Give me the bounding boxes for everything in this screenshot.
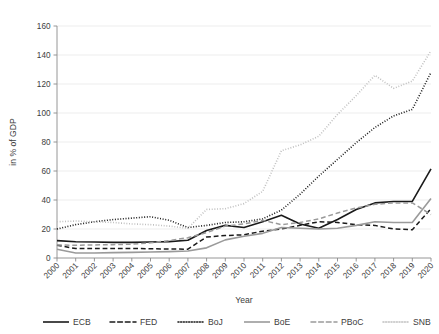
series-line-ecb — [57, 169, 431, 243]
x-axis-tick-label: 2002 — [80, 261, 100, 281]
x-axis-tick-label: 2001 — [61, 261, 81, 281]
y-axis-tick-label: 140 — [37, 51, 51, 60]
y-axis-tick-label: 80 — [41, 138, 51, 147]
chart-canvas: 0204060801001201401602000200120022003200… — [0, 0, 439, 334]
x-axis-tick-label: 2019 — [397, 261, 417, 281]
y-axis-tick-label: 100 — [37, 109, 51, 118]
y-axis-title: in % of GDP — [8, 118, 18, 166]
x-axis-tick-label: 2006 — [154, 261, 174, 281]
x-axis-tick-label: 2012 — [267, 261, 287, 281]
x-axis-tick-label: 2008 — [192, 261, 212, 281]
line-chart: 0204060801001201401602000200120022003200… — [0, 0, 439, 334]
legend-label: ECB — [73, 317, 91, 327]
legend-item-ecb[interactable]: ECB — [43, 317, 91, 327]
legend-item-snb[interactable]: SNB — [383, 317, 431, 327]
x-axis-tick-label: 2018 — [379, 261, 399, 281]
legend-label: BoE — [274, 317, 291, 327]
legend-label: SNB — [413, 317, 431, 327]
y-axis-tick-label: 60 — [41, 167, 51, 176]
series-line-snb — [57, 51, 431, 229]
x-axis-tick-label: 2015 — [323, 261, 343, 281]
series-line-pboc — [57, 203, 431, 245]
x-axis-tick-label: 2010 — [229, 261, 249, 281]
legend-label: PBoC — [341, 317, 363, 327]
x-axis-tick-label: 2005 — [136, 261, 156, 281]
x-axis-tick-label: 2014 — [304, 261, 324, 281]
legend-item-fed[interactable]: FED — [110, 317, 157, 327]
legend-item-boe[interactable]: BoE — [244, 317, 291, 327]
x-axis-tick-label: 2009 — [210, 261, 230, 281]
y-axis-tick-label: 0 — [46, 254, 51, 263]
legend-label: BoJ — [208, 317, 223, 327]
x-axis-tick-label: 2007 — [173, 261, 193, 281]
x-axis-tick-label: 2013 — [285, 261, 305, 281]
y-axis-tick-label: 40 — [41, 196, 51, 205]
x-axis-tick-label: 2000 — [42, 261, 62, 281]
x-axis-tick-label: 2004 — [117, 261, 137, 281]
y-axis-tick-label: 120 — [37, 80, 51, 89]
legend-label: FED — [140, 317, 157, 327]
x-axis-tick-label: 2003 — [98, 261, 118, 281]
x-axis-tick-label: 2011 — [248, 261, 267, 280]
legend-item-boj[interactable]: BoJ — [178, 317, 223, 327]
y-axis-tick-label: 160 — [37, 22, 51, 31]
x-axis-tick-label: 2017 — [360, 261, 380, 281]
legend-item-pboc[interactable]: PBoC — [311, 317, 363, 327]
x-axis-title: Year — [235, 295, 253, 305]
y-axis-tick-label: 20 — [41, 225, 51, 234]
series-line-boj — [57, 72, 431, 229]
x-axis-tick-label: 2020 — [416, 261, 436, 281]
x-axis-tick-label: 2016 — [341, 261, 361, 281]
